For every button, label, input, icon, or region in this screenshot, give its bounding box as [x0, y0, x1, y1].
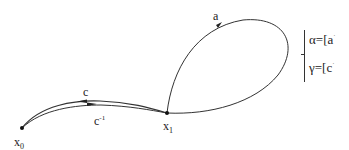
equation-gamma-eq: =[ — [315, 60, 327, 75]
equation-gamma-tail: · — [332, 60, 334, 68]
label-x1-sub: 1 — [169, 126, 173, 135]
label-c-inverse: c-1 — [94, 115, 105, 127]
equation-gamma: γ=[c· — [309, 60, 335, 76]
loop-path-a — [167, 20, 288, 114]
equation-brace — [304, 30, 307, 82]
equation-alpha-lhs: α — [309, 32, 316, 47]
label-x0-sub: 0 — [20, 142, 24, 150]
path-diagram — [0, 0, 349, 150]
label-c-text: c — [83, 85, 88, 99]
label-c-inv-sup: -1 — [99, 114, 105, 122]
equation-alpha: α=[a· — [309, 32, 336, 48]
label-a-text: a — [213, 9, 218, 23]
equation-alpha-eq: =[ — [316, 32, 328, 47]
equation-alpha-tail: · — [333, 32, 335, 40]
label-x0: x0 — [14, 136, 24, 150]
label-x1: x1 — [163, 120, 173, 135]
label-c: c — [83, 86, 88, 98]
point-x1 — [165, 111, 169, 115]
arrow-icon-c — [77, 100, 87, 104]
label-a: a — [213, 10, 218, 22]
point-x0 — [20, 126, 24, 130]
